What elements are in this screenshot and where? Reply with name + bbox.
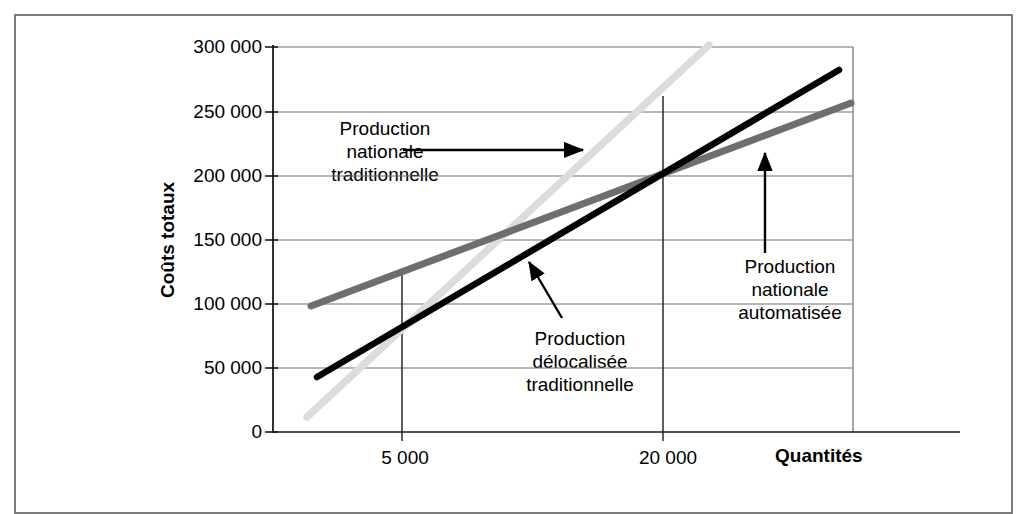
series-line-delocalisee-traditionnelle — [317, 70, 839, 377]
y-tick-marks — [265, 47, 278, 432]
series-line-nationale-automatisee — [311, 103, 851, 306]
annot-arrow-delocalisee-traditionnelle — [529, 262, 562, 318]
